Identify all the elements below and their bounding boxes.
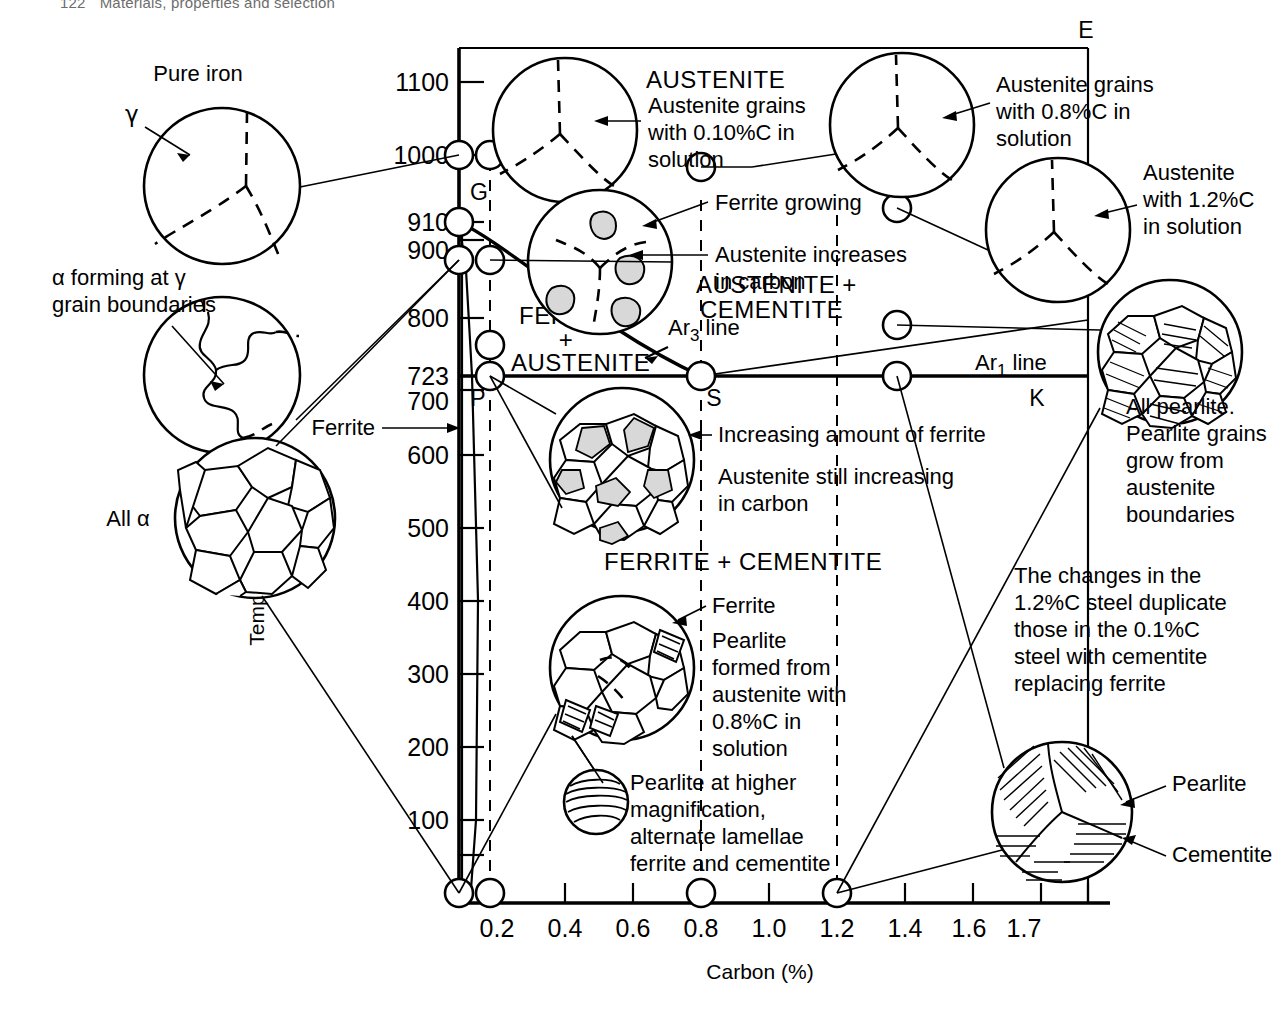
x-axis-title: Carbon (%) [706,960,813,983]
label-aust-010-2: with 0.10%C in [647,120,795,145]
label-aust-12-2: with 1.2%C [1142,187,1254,212]
micrograph-pearlite-lamellae [564,736,628,834]
label-changes-2: 1.2%C steel duplicate [1014,590,1227,615]
label-all-alpha: All α [106,506,150,531]
label-pearlite-mag-3: alternate lamellae [630,824,804,849]
label-changes-3: those in the 0.1%C [1014,617,1200,642]
label-gamma: γ [125,101,139,127]
y-tick-200: 200 [407,733,449,761]
label-aust-010-3: solution [648,147,724,172]
label-ferrite-axis: Ferrite [311,415,375,440]
label-ferrite-growing: Ferrite growing [715,190,862,215]
x-tick-1-6: 1.6 [952,914,987,942]
label-pearlite-mag-4: ferrite and cementite [630,851,831,876]
point-label-S: S [706,385,721,411]
cementite-right-leader [1128,840,1166,856]
region-austenite: AUSTENITE [646,66,785,93]
ferrite-growing-leader [648,202,708,224]
point-label-G: G [470,179,488,205]
label-pearlite-formed-3: austenite with [712,682,847,707]
label-cementite-right: Cementite [1172,842,1272,867]
x-tick-1-7: 1.7 [1007,914,1042,942]
label-aust-increases-2: in carbon [715,269,806,294]
micrograph-alpha-forming [144,260,459,453]
region-ferrite-cementite: FERRITE + CEMENTITE [604,548,882,575]
x-tick-0-6: 0.6 [616,914,651,942]
label-alpha-forming-1: α forming at γ [52,265,186,290]
point-label-K: K [1029,385,1045,411]
y-tick-500: 500 [407,514,449,542]
label-pearlite-formed-2: formed from [712,655,831,680]
y-tick-1000: 1000 [393,141,449,169]
x-tick-1-4: 1.4 [888,914,923,942]
label-ferrite-point: Ferrite [712,593,776,618]
x-tick-1-2: 1.2 [820,914,855,942]
label-aust-08-1: Austenite grains [996,72,1154,97]
y-tick-800: 800 [407,304,449,332]
y-tick-723: 723 [407,362,449,390]
label-pearlite-formed-4: 0.8%C in [712,709,801,734]
y-tick-400: 400 [407,587,449,615]
micrograph-austenite-010 [493,58,637,202]
y-tick-910: 910 [407,208,449,236]
x-tick-0-8: 0.8 [684,914,719,942]
x-axis-ticks [497,883,1088,903]
point-label-P: P [470,385,485,411]
label-pure-iron: Pure iron [153,61,242,86]
label-changes-1: The changes in the [1014,563,1201,588]
y-tick-600: 600 [407,441,449,469]
node-08C-base [687,879,715,907]
label-aust-still-2: in carbon [718,491,809,516]
x-tick-1-0: 1.0 [752,914,787,942]
label-increasing-ferrite: Increasing amount of ferrite [718,422,986,447]
label-pearlite-formed-5: solution [712,736,788,761]
label-pearlite-right: Pearlite [1172,771,1247,796]
point-label-E: E [1078,17,1093,43]
node-010C-base [476,879,504,907]
y-tick-100: 100 [407,806,449,834]
label-aust-increases-1: Austenite increases [715,242,907,267]
label-pearlite-mag-2: magnification, [630,797,766,822]
micrograph-ferrite-growing [490,190,672,334]
x-tick-0-4: 0.4 [548,914,583,942]
iron-carbon-phase-diagram: 1100 1000 910 900 800 723 700 600 500 40… [0,0,1281,1020]
label-all-pearlite-1: All pearlite. [1126,394,1235,419]
label-aust-12-3: in solution [1143,214,1242,239]
figure-page: 122Materials, properties and selection [0,0,1281,1020]
x-axis-labels: 0.2 0.4 0.6 0.8 1.0 1.2 1.4 1.6 1.7 [480,914,1042,942]
label-changes-5: replacing ferrite [1014,671,1166,696]
y-tick-900: 900 [407,236,449,264]
y-tick-300: 300 [407,660,449,688]
node-G-910 [445,208,473,236]
label-pearlite-mag-1: Pearlite at higher [630,770,796,795]
label-pearlite-formed-1: Pearlite [712,628,787,653]
node-010C-770 [476,331,504,359]
region-austenite-2: AUSTENITE [511,349,650,376]
y-tick-700: 700 [407,387,449,415]
x-tick-0-2: 0.2 [480,914,515,942]
label-aust-010-1: Austenite grains [648,93,806,118]
label-aust-still-1: Austenite still increasing [718,464,954,489]
label-all-pearlite-4: austenite [1126,475,1215,500]
label-alpha-forming-2: grain boundaries [52,292,216,317]
y-axis-labels: 1100 1000 910 900 800 723 700 600 500 40… [393,68,449,834]
micrograph-increasing-ferrite [490,376,694,544]
label-changes-4: steel with cementite [1014,644,1207,669]
ar3-label: Ar3 line [668,315,740,345]
label-all-pearlite-2: Pearlite grains [1126,421,1267,446]
label-all-pearlite-5: boundaries [1126,502,1235,527]
label-aust-08-2: with 0.8%C in [995,99,1131,124]
y-tick-1100: 1100 [395,68,449,96]
label-all-pearlite-3: grow from [1126,448,1224,473]
label-aust-12-1: Austenite [1143,160,1235,185]
label-aust-08-3: solution [996,126,1072,151]
